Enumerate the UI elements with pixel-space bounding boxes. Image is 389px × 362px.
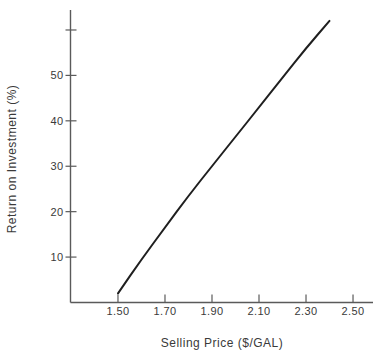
y-tick-label: 20: [50, 206, 63, 218]
tick-labels-layer: 10203040501.501.701.902.102.302.50: [50, 69, 364, 316]
x-axis-title: Selling Price ($/GAL): [161, 336, 284, 350]
y-tick-label: 10: [50, 251, 63, 263]
x-tick-label: 1.70: [153, 305, 176, 317]
y-axis-title: Return on Investment (%): [5, 85, 19, 234]
x-tick-label: 1.50: [106, 305, 129, 317]
roi-vs-selling-price-figure: 10203040501.501.701.902.102.302.50 Retur…: [0, 0, 389, 362]
x-tick-label: 2.10: [247, 305, 270, 317]
series-line-return-on-investment-vs-selling-price: [118, 21, 330, 294]
axes-layer: [71, 10, 374, 303]
x-tick-label: 1.90: [200, 305, 223, 317]
y-tick-label: 30: [50, 160, 63, 172]
y-tick-label: 50: [50, 69, 63, 81]
x-tick-label: 2.50: [342, 305, 365, 317]
chart-canvas: 10203040501.501.701.902.102.302.50 Retur…: [0, 0, 389, 362]
y-tick-label: 40: [50, 115, 63, 127]
series-layer: [118, 21, 330, 294]
x-tick-label: 2.30: [295, 305, 318, 317]
ticks-layer: [66, 30, 354, 303]
